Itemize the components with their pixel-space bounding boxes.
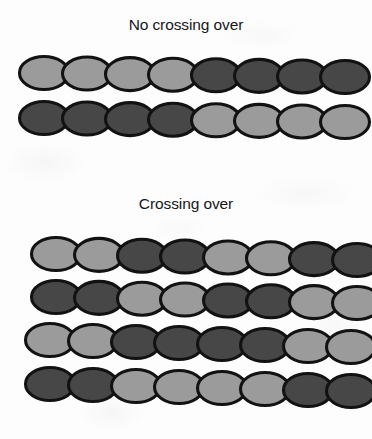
chromatid-row <box>26 368 372 408</box>
chromatid-row <box>32 281 372 320</box>
chromatid-bead-light <box>333 287 372 320</box>
chromatid-row <box>32 238 372 277</box>
chromatid-rows-layer <box>0 0 372 439</box>
chromatid-recombination-diagram: No crossing over Crossing over <box>0 0 372 439</box>
chromatid-bead-light <box>321 106 370 139</box>
chromatid-bead-dark <box>327 375 372 408</box>
chromatid-bead-light <box>327 331 372 364</box>
chromatid-bead-dark <box>333 244 372 277</box>
chromatid-row <box>26 324 372 364</box>
chromatid-bead-dark <box>321 61 370 94</box>
chromatid-row <box>20 102 370 139</box>
chromatid-row <box>20 57 370 94</box>
